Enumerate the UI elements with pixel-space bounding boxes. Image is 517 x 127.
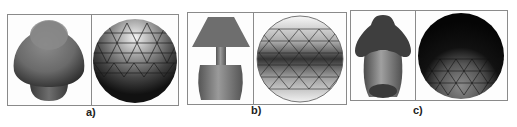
panel-a <box>7 14 179 106</box>
panel-b-sphere <box>254 13 346 104</box>
panel-c-shape <box>351 11 415 100</box>
rounded-cone-shape-icon <box>8 15 91 105</box>
panel-b-label: b) <box>251 104 261 116</box>
mushroom-cap-shape-icon <box>351 11 415 100</box>
panel-a-sphere <box>92 15 178 105</box>
panel-c-label: c) <box>413 104 423 116</box>
panel-c <box>350 10 508 101</box>
panel-b <box>187 12 347 105</box>
triangulated-sphere-dark-top-icon <box>416 11 507 100</box>
panel-c-sphere <box>416 11 507 100</box>
panel-a-label: a) <box>86 106 96 118</box>
panel-a-shape <box>8 15 91 105</box>
panel-b-shape <box>188 13 253 104</box>
triangulated-sphere-light-top-icon <box>92 15 178 105</box>
triangulated-sphere-dark-band-icon <box>254 13 346 104</box>
table-lamp-shape-icon <box>188 13 253 104</box>
